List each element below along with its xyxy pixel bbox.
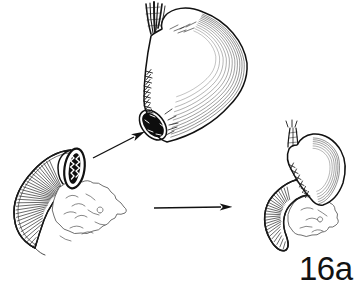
figure-label: 16a: [299, 252, 357, 286]
pancreas-mass: [52, 181, 126, 241]
duodenum-pancreas-drawing: [14, 147, 126, 255]
arrow-to-stomach-remnant: [93, 137, 134, 158]
surgical-illustration: [0, 0, 360, 289]
figure-canvas: 16a: [0, 0, 360, 289]
tubular-stomach-drawing: [265, 120, 345, 251]
arrow-to-tubular-stomach: [154, 207, 221, 208]
stomach-remnant-drawing: [134, 2, 247, 145]
esophagus-stub: [286, 120, 298, 147]
